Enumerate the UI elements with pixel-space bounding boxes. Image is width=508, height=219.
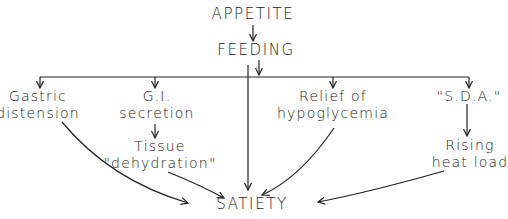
node-rising-line1: Rising xyxy=(432,137,508,154)
node-relief-line1: Relief of xyxy=(277,88,389,105)
node-rising-line2: heat load xyxy=(432,154,508,171)
node-gi-line2: secretion xyxy=(119,105,194,122)
diagram-canvas: APPETITE FEEDING Gastric distension G.I.… xyxy=(0,0,508,219)
node-sda: "S.D.A." xyxy=(437,88,502,105)
node-satiety: SATIETY xyxy=(216,196,288,213)
node-feeding-label: FEEDING xyxy=(217,42,295,59)
node-rising-heat-load: Rising heat load xyxy=(432,137,508,171)
node-sda-line1: "S.D.A." xyxy=(437,88,502,105)
node-relief-line2: hypoglycemia xyxy=(277,105,389,122)
node-appetite-label: APPETITE xyxy=(212,6,295,23)
node-gastric-line2: distension xyxy=(0,105,80,122)
node-feeding: FEEDING xyxy=(217,42,295,59)
node-gastric-line1: Gastric xyxy=(0,88,80,105)
node-tissue-line2: "dehydration" xyxy=(103,155,216,172)
node-gi-secretion: G.I. secretion xyxy=(119,88,194,122)
node-gastric-distension: Gastric distension xyxy=(0,88,80,122)
arrow-relief-satiety xyxy=(262,128,334,195)
node-relief-hypoglycemia: Relief of hypoglycemia xyxy=(277,88,389,122)
node-appetite: APPETITE xyxy=(212,6,295,23)
node-tissue-line1: Tissue xyxy=(103,138,216,155)
arrow-heat-satiety xyxy=(318,171,444,202)
node-tissue-dehydration: Tissue "dehydration" xyxy=(103,138,216,172)
node-gi-line1: G.I. xyxy=(119,88,194,105)
node-satiety-label: SATIETY xyxy=(216,196,288,213)
